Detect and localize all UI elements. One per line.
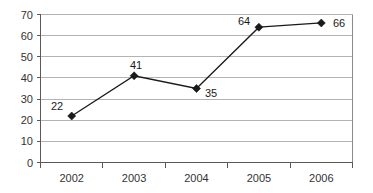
- y-axis-label-60: 60: [21, 30, 33, 42]
- x-axis-label-2005: 2005: [247, 172, 271, 184]
- x-axis-ticks: [41, 163, 353, 168]
- x-axis-label-2004: 2004: [184, 172, 208, 184]
- x-axis-tick-labels: 2002 2003 2004 2005 2006: [59, 172, 333, 184]
- data-label-2002: 22: [51, 100, 63, 112]
- x-axis-label-2006: 2006: [309, 172, 333, 184]
- x-axis-label-2002: 2002: [59, 172, 83, 184]
- y-axis-tick-labels: 70 60 50 40 30 20 10 0: [21, 9, 33, 169]
- y-axis-label-40: 40: [21, 72, 33, 84]
- y-axis-label-20: 20: [21, 114, 33, 126]
- y-axis-label-30: 30: [21, 93, 33, 105]
- data-label-2005: 64: [238, 15, 250, 27]
- y-axis-label-0: 0: [27, 157, 33, 169]
- data-label-2003: 41: [130, 59, 142, 71]
- y-axis-label-70: 70: [21, 9, 33, 21]
- y-axis-label-50: 50: [21, 51, 33, 63]
- line-chart: 70 60 50 40 30 20 10 0 2002 2003 2004 20…: [0, 0, 373, 193]
- y-axis-label-10: 10: [21, 135, 33, 147]
- x-axis-label-2003: 2003: [122, 172, 146, 184]
- data-label-2006: 66: [333, 17, 345, 29]
- chart-canvas: 70 60 50 40 30 20 10 0 2002 2003 2004 20…: [0, 0, 373, 193]
- data-label-2004: 35: [205, 87, 217, 99]
- y-axis-ticks: [37, 15, 41, 163]
